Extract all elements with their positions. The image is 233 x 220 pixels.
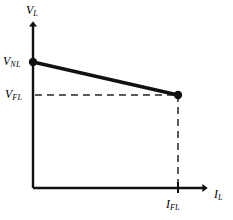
x-axis-label: IL: [214, 188, 223, 200]
data-point-no-load: [29, 58, 37, 66]
y-tick-vfl-sub: FL: [12, 93, 22, 102]
plot-area: [0, 0, 233, 220]
x-tick-label-ifl: IFL: [166, 198, 180, 210]
y-axis-label: VL: [26, 4, 38, 16]
load-characteristic-line: [33, 62, 178, 95]
y-tick-label-vnl: VNL: [3, 55, 21, 67]
y-axis-label-sub: L: [33, 9, 38, 18]
y-tick-label-vfl: VFL: [5, 88, 22, 100]
x-tick-ifl-sub: FL: [170, 203, 180, 212]
voltage-regulation-chart: VL IL VNL VFL IFL: [0, 0, 233, 220]
y-tick-vnl-sub: NL: [10, 60, 20, 69]
x-axis-label-sub: L: [218, 193, 223, 202]
data-point-full-load: [174, 91, 182, 99]
